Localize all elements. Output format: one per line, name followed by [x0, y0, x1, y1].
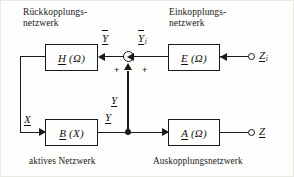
heading-feedback-network: Rückkopplungs- netzwerk — [23, 7, 87, 29]
signal-z-i-subscript: i — [266, 54, 268, 63]
signal-y-lower-base: Y — [105, 111, 111, 123]
summing-junction-sign-right: + — [142, 66, 147, 75]
wire-h-out-left — [20, 56, 46, 57]
block-b-label: B (X) — [59, 127, 84, 139]
block-a-symbol: A — [181, 127, 188, 139]
signal-z-base: Z — [259, 125, 265, 137]
wire-sum-to-h — [105, 56, 124, 57]
block-b-arg: (X) — [69, 127, 84, 139]
block-h-omega: H (Ω) — [45, 44, 98, 71]
terminal-input-zi — [248, 53, 255, 60]
signal-label-x: X — [24, 113, 31, 125]
signal-y-i-subscript: i — [145, 37, 147, 46]
wire-left-rail-vertical — [20, 56, 21, 133]
signal-y-bar-base: Y — [102, 32, 108, 44]
block-diagram-canvas: Rückkopplungs- netzwerk Einkopplungs- ne… — [0, 0, 294, 177]
block-h-arg: (Ω) — [69, 52, 85, 64]
block-e-label: E (Ω) — [181, 52, 207, 64]
signal-label-y-bar: Y — [102, 32, 108, 44]
block-b-symbol: B — [59, 127, 66, 139]
wire-e-to-sum — [133, 56, 169, 57]
signal-y-i-base: Y — [138, 32, 144, 44]
wire-dot-to-sum-vertical — [127, 71, 128, 132]
caption-output-network: Auskopplungsnetzwerk — [153, 156, 243, 167]
block-e-omega: E (Ω) — [168, 44, 220, 71]
caption-active-network: aktives Netzwerk — [29, 156, 95, 167]
signal-y-upper-base: Y — [111, 94, 117, 106]
block-b-x: B (X) — [45, 119, 98, 146]
signal-z-i-base: Z — [259, 49, 265, 61]
block-h-symbol: H — [58, 52, 66, 64]
arrowhead-into-h — [98, 53, 105, 61]
summing-junction-sign-left: + — [114, 66, 119, 75]
signal-label-z-i: Zi — [259, 49, 268, 63]
block-h-label: H (Ω) — [58, 52, 85, 64]
block-e-arg: (Ω) — [191, 52, 207, 64]
block-a-omega: A (Ω) — [168, 119, 220, 146]
arrowhead-into-sum — [127, 53, 134, 61]
terminal-output-z — [248, 129, 255, 136]
arrowhead-into-sum-bottom — [124, 63, 132, 70]
heading-input-network: Einkopplungs- netzwerk — [169, 7, 226, 29]
block-e-symbol: E — [181, 52, 188, 64]
arrowhead-into-b — [39, 128, 46, 136]
signal-label-y-upper: Y — [111, 94, 117, 106]
block-a-arg: (Ω) — [191, 127, 207, 139]
signal-label-z: Z — [259, 125, 265, 137]
arrowhead-into-e — [220, 53, 227, 61]
signal-label-y-i: Yi — [138, 32, 147, 46]
signal-x-base: X — [24, 113, 31, 125]
block-a-label: A (Ω) — [181, 127, 207, 139]
signal-label-y-lower: Y — [105, 111, 111, 123]
arrowhead-into-a — [162, 128, 169, 136]
